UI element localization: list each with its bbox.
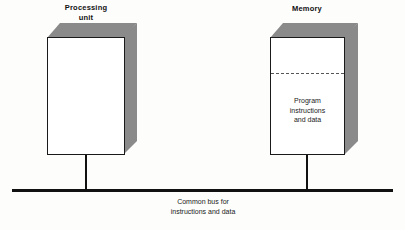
processing-unit-bus-connector [85,155,87,191]
memory-box-side-face [344,23,358,155]
processing-unit-box-front-face [47,37,125,155]
memory-box [270,23,358,155]
diagram-canvas: Processing unit Memory Program instructi… [0,0,405,230]
processing-unit-box-top-face [47,23,137,38]
memory-bus-connector [306,155,308,191]
memory-contents-text: Program instructions and data [272,96,343,125]
processing-unit-box [47,23,137,155]
memory-label: Memory [270,4,344,14]
processing-unit-label: Processing unit [47,3,125,22]
memory-partition-dashed-line [271,73,344,74]
common-bus-line [12,189,393,192]
memory-box-top-face [270,23,358,38]
processing-unit-box-side-face [123,23,137,155]
common-bus-caption: Common bus for instructions and data [103,197,303,216]
